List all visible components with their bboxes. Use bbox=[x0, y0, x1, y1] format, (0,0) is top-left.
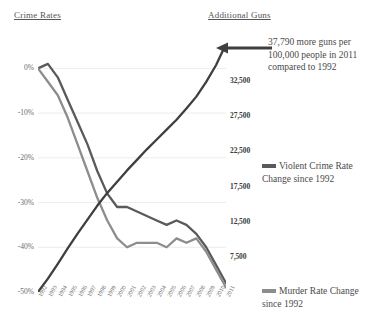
right-axis-tick-label: 7,500 bbox=[230, 252, 246, 261]
line-swatch-icon bbox=[262, 289, 276, 293]
left-axis-tick-label: -30% bbox=[0, 198, 34, 207]
legend-label-murder: Murder Rate Change since 1992 bbox=[262, 286, 359, 309]
left-axis-tick-label: 0% bbox=[0, 63, 34, 72]
series-line bbox=[38, 68, 226, 287]
chart-svg bbox=[38, 46, 226, 292]
left-axis-tick-label: -10% bbox=[0, 108, 34, 117]
left-axis-tick-label: -20% bbox=[0, 153, 34, 162]
left-axis-tick-label: -50% bbox=[0, 287, 34, 296]
x-axis-tick-label: 2011 bbox=[225, 285, 236, 298]
right-axis-tick-label: 17,500 bbox=[230, 182, 250, 191]
left-arrow-icon bbox=[216, 42, 272, 54]
line-swatch-icon bbox=[262, 164, 276, 168]
legend-item-violent: Violent Crime Rate Change since 1992 bbox=[262, 160, 366, 185]
legend-item-murder: Murder Rate Change since 1992 bbox=[262, 285, 366, 310]
right-axis-tick-label: 27,500 bbox=[230, 111, 250, 120]
right-axis-tick-label: 12,500 bbox=[230, 217, 250, 226]
left-axis-title: Crime Rates bbox=[14, 10, 61, 20]
chart-container: Crime Rates Additional Guns 0%-10%-20%-3… bbox=[0, 0, 371, 330]
plot-area bbox=[38, 46, 226, 292]
series-line bbox=[38, 46, 226, 292]
series-lines bbox=[38, 46, 226, 292]
right-axis-tick-label: 32,500 bbox=[230, 76, 250, 85]
gridlines bbox=[38, 68, 226, 292]
right-axis-title: Additional Guns bbox=[208, 10, 271, 20]
annotation-text: 37,790 more guns per 100,000 people in 2… bbox=[268, 36, 368, 74]
left-axis-tick-label: -40% bbox=[0, 242, 34, 251]
right-axis-tick-label: 22,500 bbox=[230, 146, 250, 155]
